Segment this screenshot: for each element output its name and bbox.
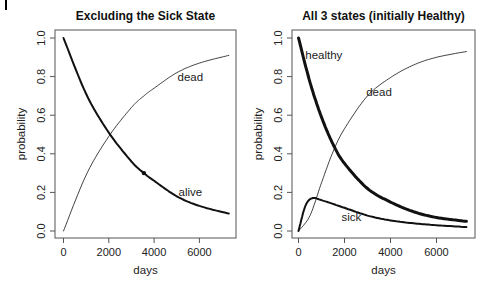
y-tick-label: 1.0	[35, 30, 47, 45]
y-tick-label: 1.0	[272, 30, 284, 45]
x-tick-label: 2000	[97, 246, 121, 258]
chart-title: All 3 states (initially Healthy)	[302, 9, 465, 23]
y-tick-label: 0.4	[35, 146, 47, 161]
x-tick-label: 4000	[142, 246, 166, 258]
x-axis-label: days	[133, 264, 158, 276]
y-tick-label: 0.6	[272, 108, 284, 123]
x-tick-label: 2000	[332, 246, 356, 258]
y-tick-label: 0.6	[35, 108, 47, 123]
series-healthy-line	[299, 38, 467, 221]
series-sick-line	[299, 198, 467, 231]
curve-label-dead: dead	[366, 86, 392, 98]
x-tick-label: 6000	[424, 246, 448, 258]
x-tick-label: 0	[60, 246, 66, 258]
y-tick-label: 0.0	[272, 223, 284, 238]
y-tick-label: 0.2	[35, 185, 47, 200]
y-tick-label: 0.4	[272, 146, 284, 161]
x-tick-label: 4000	[378, 246, 402, 258]
curve-label-healthy: healthy	[305, 49, 342, 61]
plot-frame	[55, 30, 236, 238]
y-tick-label: 0.8	[272, 69, 284, 84]
series-dead-line	[64, 55, 229, 231]
y-tick-label: 0.0	[35, 223, 47, 238]
series-alive-line	[64, 38, 229, 214]
chart-title: Excluding the Sick State	[76, 9, 216, 23]
curve-label-alive: alive	[179, 186, 203, 198]
y-tick-label: 0.2	[272, 185, 284, 200]
x-tick-label: 0	[295, 246, 301, 258]
x-tick-label: 6000	[187, 246, 211, 258]
y-axis-label: probability	[252, 108, 264, 161]
y-tick-label: 0.8	[35, 69, 47, 84]
highlight-point	[142, 171, 146, 175]
curve-label-dead: dead	[178, 71, 204, 83]
curve-label-sick: sick	[341, 211, 361, 223]
x-axis-label: days	[371, 264, 396, 276]
series-dead-line	[299, 52, 467, 232]
y-axis-label: probability	[15, 108, 27, 161]
figure: Excluding the Sick State0200040006000day…	[0, 0, 489, 288]
